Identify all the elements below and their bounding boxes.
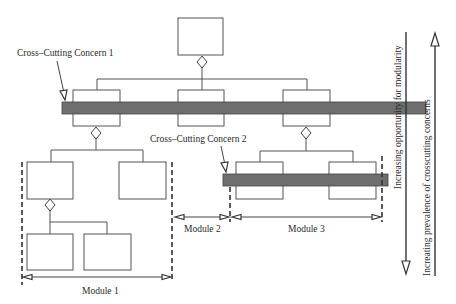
module-2-arrow-left-icon <box>175 215 184 220</box>
concern-1-pointer-line <box>57 61 64 93</box>
level2-box-left-b <box>119 162 166 199</box>
module-1-label: Module 1 <box>82 286 119 296</box>
crosscutting-concern-2-label: Cross–Cutting Concern 2 <box>150 134 247 144</box>
module-3-arrow-left-icon <box>232 215 241 220</box>
crosscutting-axis-arrow-up-icon <box>431 33 439 46</box>
crosscutting-axis-label: Increating prevalence of crosscutting co… <box>422 99 432 276</box>
crosscutting-concern-2-bar <box>223 174 388 186</box>
modularity-axis-label: Increasing opportunity for modularity <box>393 45 403 189</box>
crosscutting-concern-1-bar <box>62 102 426 114</box>
concern-2-pointer-head-icon <box>221 162 228 172</box>
module-1-arrow-right-icon <box>162 275 171 280</box>
modularity-axis-arrow-down-icon <box>402 261 410 274</box>
aggregation-diamond-right <box>301 127 311 139</box>
root-box <box>178 18 223 55</box>
aggregation-diamond-left-a <box>45 199 55 211</box>
module-1-arrow-left-icon <box>23 275 32 280</box>
level2-box-left-a <box>27 162 73 199</box>
module-3-label: Module 3 <box>288 224 325 234</box>
aggregation-diamond-left <box>91 127 101 139</box>
concern-1-pointer-head-icon <box>60 90 67 100</box>
module-diagram: Cross–Cutting Concern 1 Cross–Cutting Co… <box>0 0 456 304</box>
level3-box-left-b <box>84 234 131 270</box>
crosscutting-concern-1-label: Cross–Cutting Concern 1 <box>17 48 114 58</box>
module-3-arrow-right-icon <box>372 215 381 220</box>
aggregation-diamond-root <box>197 56 207 68</box>
module-2-label: Module 2 <box>184 224 221 234</box>
module-2-arrow-right-icon <box>220 215 229 220</box>
level3-box-left-a <box>27 234 73 270</box>
